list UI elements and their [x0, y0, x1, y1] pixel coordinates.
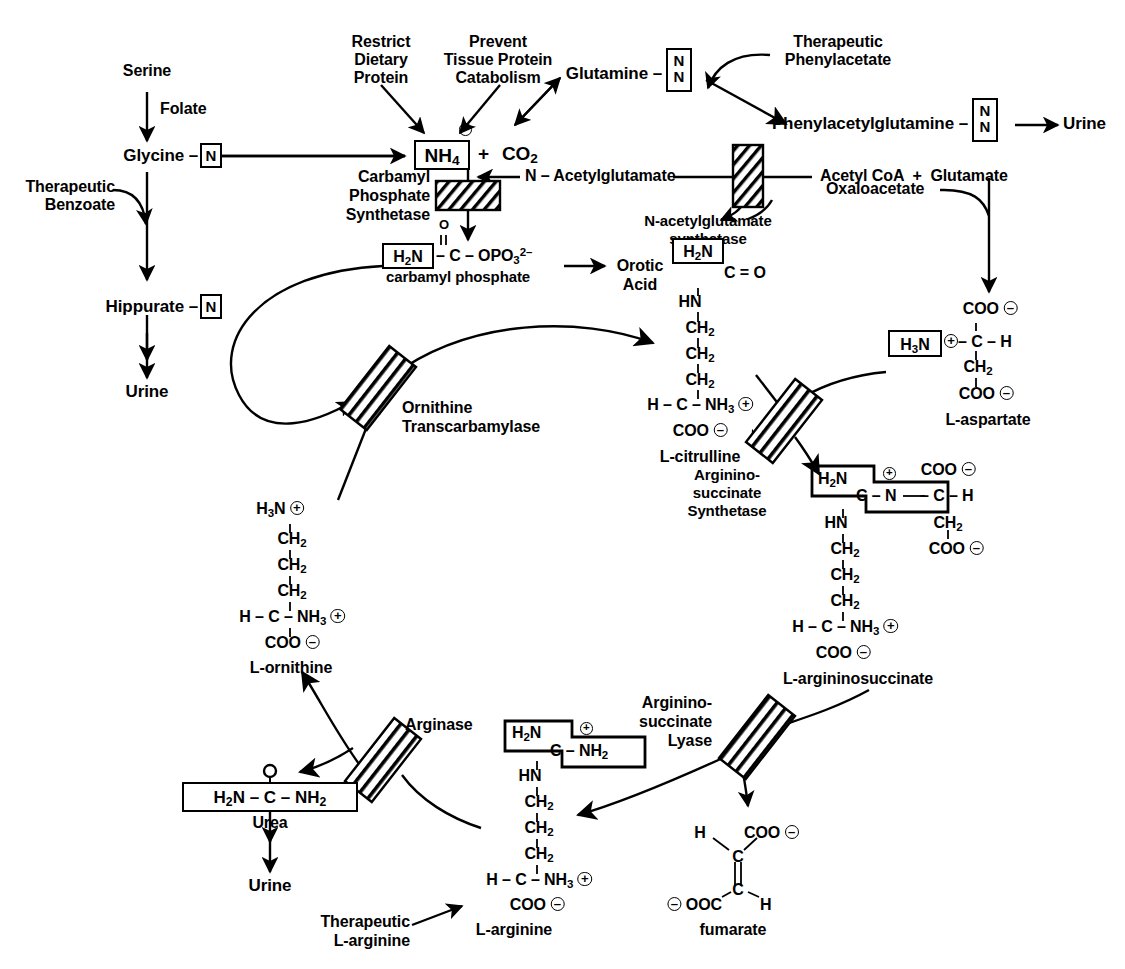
- arrow-lyase-to-fumarate: [738, 752, 748, 806]
- arrow-ornithine-to-otc: [338, 398, 378, 500]
- bond-fum-1: [713, 838, 729, 850]
- argininosuccinate-succinyl-alpha: – C – H: [920, 487, 974, 505]
- arrow-arginase-to-urea: [300, 748, 353, 772]
- aspartate-carboxylate-2: COO –: [959, 385, 1014, 403]
- label-n-acetylglutamate: N – Acetylglutamate: [525, 167, 675, 185]
- label-therapeutic-l-arginine: Therapeutic L-arginine: [320, 912, 410, 950]
- boxed-h2n-carbamyl-phosphate: H2N: [382, 243, 434, 269]
- label-carbamyl-phosphate: carbamyl phosphate: [386, 269, 530, 286]
- boxed-h2n-citrulline: H2N: [672, 238, 724, 264]
- boxed-h3n-aspartate: H3N: [888, 330, 942, 357]
- label-glutamine: Glutamine –: [566, 64, 662, 83]
- argininosuccinate-ch2-1: CH2: [830, 540, 859, 560]
- arrow-therapeutic-phenylacetate: [708, 55, 770, 88]
- label-ornithine-transcarbamylase: Ornithine Transcarbamylase: [402, 398, 540, 436]
- arginine-h2n: H2N: [512, 724, 541, 744]
- citrulline-ch2-1: CH2: [685, 319, 714, 339]
- enzyme-bar-argininosuccinate-lyase: [719, 695, 795, 779]
- label-l-argininosuccinate: L-argininosuccinate: [783, 670, 933, 688]
- argininosuccinate-ch2-3: CH2: [830, 592, 859, 612]
- urea-cycle-diagram: Serine Folate Therapeutic Benzoate Restr…: [0, 0, 1125, 969]
- label-argininosuccinate-synthetase: Arginino- succinate Synthetase: [687, 466, 766, 520]
- fumarate-c-1: C: [732, 848, 743, 866]
- label-orotic-acid: Orotic Acid: [617, 256, 664, 294]
- label-oxaloacetate: Oxaloacetate: [826, 180, 924, 198]
- arrow-therapeutic-arg: [412, 906, 462, 925]
- arrow-as-to-argsucc: [795, 437, 819, 474]
- curve-oxaloacetate: [940, 190, 989, 216]
- citrulline-hn: HN: [679, 293, 702, 311]
- label-restrict-dietary-protein: Restrict Dietary Protein: [352, 33, 411, 87]
- argininosuccinate-ch2-2: CH2: [830, 566, 859, 586]
- nitrogen-tag-glutamine: N N: [666, 48, 692, 92]
- argininosuccinate-carboxylate: COO –: [816, 644, 871, 662]
- arrow-lyase-to-arginine: [578, 757, 725, 815]
- arrow-restrict-dietary-protein: [381, 85, 424, 133]
- ammonium-box: NH4: [414, 140, 470, 170]
- arginine-ch2-1: CH2: [524, 793, 553, 813]
- label-urine-bottom: Urine: [249, 876, 292, 895]
- citrulline-ch2-3: CH2: [685, 371, 714, 391]
- curve-argsucc-to-lyase: [786, 690, 869, 724]
- aspartate-carboxylate-1: COO –: [963, 300, 1018, 318]
- arginine-c-nh2: C – NH2: [550, 742, 608, 762]
- label-plus-sign: +: [478, 143, 489, 164]
- label-argininosuccinate-lyase: Arginino- succinate Lyase: [639, 693, 712, 751]
- enzyme-bar-carbamyl-phosphate-synthetase: [436, 181, 500, 210]
- bond-fum-6: [748, 892, 759, 897]
- arginine-plus-charge: +: [580, 721, 593, 737]
- fumarate-coo-top: COO –: [744, 824, 799, 842]
- label-urea: Urea: [252, 814, 287, 832]
- label-carbamyl-phosphate-synthetase: Carbamyl Phosphate Synthetase: [346, 168, 430, 225]
- citrulline-alpha-carbon: H – C – NH3 +: [647, 396, 753, 416]
- fumarate-ooc-bottom: – OOC: [667, 896, 722, 914]
- line-citrulline-to-as: [756, 375, 783, 410]
- label-therapeutic-phenylacetate: Therapeutic Phenylacetate: [785, 33, 891, 69]
- arginine-ch2-2: CH2: [524, 819, 553, 839]
- argininosuccinate-ch2-succinyl: CH2: [933, 514, 962, 534]
- aspartate-ch2: CH2: [963, 358, 992, 378]
- citrulline-carboxylate: COO –: [673, 422, 728, 440]
- label-l-citrulline: L-citrulline: [660, 448, 741, 466]
- ornithine-alpha-carbon: H – C – NH3 +: [239, 608, 345, 628]
- citrulline-c-equals-o: C = O: [724, 264, 766, 282]
- nitrogen-tag-phenylacetylglutamine: N N: [972, 98, 998, 142]
- argininosuccinate-coo-1: COO –: [921, 461, 976, 479]
- argininosuccinate-coo-2: COO –: [929, 540, 984, 558]
- label-co2: CO2: [502, 143, 538, 167]
- curve-otc-to-citrulline: [392, 326, 653, 376]
- carbamyl-phosphate-chain: – C – OPO32–: [436, 246, 532, 267]
- citrulline-ch2-2: CH2: [685, 345, 714, 365]
- arrow-therapeutic-benzoate: [113, 190, 146, 224]
- label-fumarate: fumarate: [700, 921, 767, 939]
- curve-cp-to-otc: [231, 266, 383, 424]
- enzyme-bar-argininosuccinate-synthetase: [746, 379, 822, 463]
- urea-carbonyl-o: [264, 765, 276, 777]
- label-serine: Serine: [123, 62, 171, 80]
- argininosuccinate-hn: HN: [825, 514, 848, 532]
- ammonium-plus-charge: +: [459, 122, 472, 138]
- nitrogen-tag-hippurate: N: [200, 294, 222, 319]
- ornithine-carboxylate: COO –: [265, 634, 320, 652]
- argininosuccinate-h2n: H2N: [818, 470, 847, 490]
- arginine-carboxylate: COO –: [510, 896, 565, 914]
- arrow-arginase-to-ornithine: [302, 672, 365, 772]
- enzyme-bar-n-acetylglutamate-synthetase: [733, 145, 763, 207]
- carbamyl-phosphate-carbonyl-o: O: [439, 218, 449, 233]
- arginine-ch2-3: CH2: [524, 845, 553, 865]
- ornithine-h3n: H3N +: [256, 500, 304, 520]
- nitrogen-tag-glycine: N: [200, 143, 222, 168]
- label-folate: Folate: [160, 100, 207, 118]
- label-l-ornithine: L-ornithine: [250, 659, 332, 677]
- arginine-hn: HN: [519, 767, 542, 785]
- fumarate-h-bottom: H: [760, 896, 771, 914]
- ornithine-ch2-1: CH2: [277, 530, 306, 550]
- label-arginase: Arginase: [405, 716, 473, 734]
- label-phenylacetylglutamine: Phenylacetylglutamine –: [772, 114, 968, 133]
- label-hippurate: Hippurate –: [106, 297, 198, 316]
- fumarate-c-2: C: [732, 881, 743, 899]
- label-urine-left: Urine: [126, 382, 169, 401]
- label-l-arginine: L-arginine: [476, 921, 552, 939]
- bond-fum-5: [722, 892, 731, 897]
- ornithine-ch2-2: CH2: [277, 556, 306, 576]
